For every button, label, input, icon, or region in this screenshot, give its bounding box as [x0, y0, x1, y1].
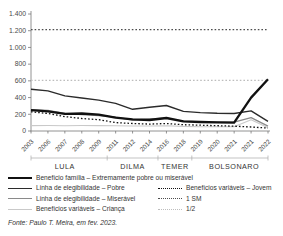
- legend-item-um-sm: 1 SM: [158, 195, 279, 203]
- x-tick-label: 2007: [54, 137, 69, 152]
- legend: Benefício família – Extremamente pobre o…: [0, 172, 283, 213]
- legend-item-variaveis-crianca: Benefícios variáveis – Criança: [8, 205, 158, 213]
- period-label-dilma: DILMA: [120, 162, 144, 171]
- legend-label-beneficio-familia: Benefício família – Extremamente pobre o…: [36, 174, 193, 182]
- legend-swatch-meio-sm: [158, 209, 182, 210]
- chart-svg: 02004006008001.0001.2001.400200320062007…: [0, 0, 283, 172]
- legend-label-um-sm: 1 SM: [186, 195, 201, 203]
- x-tick-label: 2020: [206, 137, 221, 152]
- x-tick-label: 2021: [223, 137, 238, 152]
- x-tick-label: 2018: [172, 137, 187, 152]
- legend-item-linha-pobre: Linha de elegibilidade – Pobre: [8, 184, 158, 192]
- legend-swatch-variaveis-jovem: [158, 188, 182, 189]
- legend-item-beneficio-familia: Benefício família – Extremamente pobre o…: [8, 174, 279, 182]
- legend-label-linha-miseravel: Linha de elegibilidade – Miserável: [36, 195, 135, 203]
- y-tick-label: 200: [15, 111, 27, 118]
- legend-swatch-linha-miseravel: [8, 198, 32, 199]
- chart-area: 02004006008001.0001.2001.400200320062007…: [0, 0, 283, 172]
- legend-swatch-linha-pobre: [8, 188, 32, 189]
- x-tick-label: 2006: [37, 137, 52, 152]
- legend-label-meio-sm: 1/2: [186, 205, 195, 213]
- period-label-bolsonaro: BOLSONARO: [209, 162, 259, 171]
- x-tick-label: 2022: [257, 137, 272, 152]
- legend-item-linha-miseravel: Linha de elegibilidade – Miserável: [8, 195, 158, 203]
- legend-label-variaveis-jovem: Benefícios variáveis – Jovem: [186, 184, 271, 192]
- x-tick-label: 2011: [105, 137, 120, 152]
- y-tick-label: 800: [15, 60, 27, 67]
- y-tick-label: 0: [22, 127, 26, 134]
- legend-label-linha-pobre: Linha de elegibilidade – Pobre: [36, 184, 125, 192]
- y-tick-label: 1.000: [9, 44, 26, 51]
- y-tick-label: 600: [15, 77, 27, 84]
- source-text: Fonte: Paulo T. Meira, em fev. 2023.: [8, 219, 117, 226]
- y-tick-label: 1.400: [9, 10, 26, 17]
- legend-swatch-variaveis-crianca: [8, 209, 32, 210]
- legend-swatch-um-sm: [158, 198, 182, 199]
- x-tick-label: 2019: [189, 137, 204, 152]
- legend-label-variaveis-crianca: Benefícios variáveis – Criança: [36, 205, 125, 213]
- x-tick-label: 2008: [70, 137, 85, 152]
- x-tick-label: 2014: [138, 137, 153, 152]
- y-tick-label: 400: [15, 94, 27, 101]
- legend-item-variaveis-jovem: Benefícios variáveis – Jovem: [158, 184, 279, 192]
- series-line-linha-elegibilidade-pobre: [31, 89, 268, 121]
- legend-item-meio-sm: 1/2: [158, 205, 279, 213]
- x-tick-label: 2016: [155, 137, 170, 152]
- legend-swatch-beneficio-familia: [8, 177, 32, 179]
- period-label-lula: LULA: [55, 162, 75, 171]
- x-tick-label: 2009: [87, 137, 102, 152]
- x-tick-label: 2003: [20, 137, 35, 152]
- x-tick-label: 2021: [240, 137, 255, 152]
- y-tick-label: 1.200: [9, 27, 26, 34]
- source-note: Fonte: Paulo T. Meira, em fev. 2023.: [0, 213, 283, 226]
- series-line-beneficio-familia: [31, 79, 268, 122]
- period-label-temer: TEMER: [161, 162, 189, 171]
- x-tick-label: 2012: [121, 137, 136, 152]
